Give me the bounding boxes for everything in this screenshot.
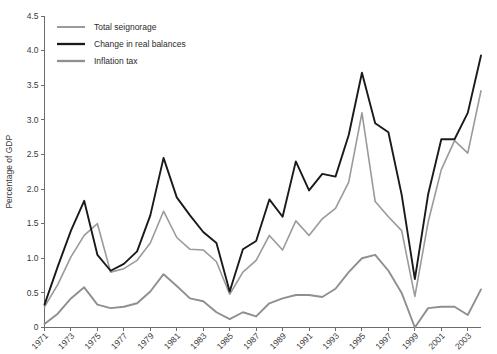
x-axis-ticks: 1971197319751977197919811983198519871989…: [29, 328, 473, 352]
y-tick-label: 0: [34, 322, 39, 332]
legend-label-0: Total seignorage: [94, 22, 157, 32]
x-tick-label: 2001: [426, 331, 447, 352]
x-tick-label: 1987: [241, 331, 262, 352]
x-tick-label: 1993: [320, 331, 341, 352]
y-tick-label: 2.5: [27, 149, 39, 159]
chart-legend: Total seignorageChange in real balancesI…: [57, 22, 186, 66]
legend-label-1: Change in real balances: [94, 39, 186, 49]
legend-label-2: Inflation tax: [94, 56, 138, 66]
x-tick-label: 1995: [347, 331, 368, 352]
y-axis-ticks: 00.51.01.52.02.53.03.54.04.5: [27, 11, 45, 333]
x-tick-label: 1973: [56, 331, 77, 352]
y-tick-label: 0.5: [27, 288, 39, 298]
x-tick-label: 1991: [294, 331, 315, 352]
y-tick-label: 3.5: [27, 80, 39, 90]
x-tick-label: 1989: [268, 331, 289, 352]
x-tick-label: 1985: [215, 331, 236, 352]
y-tick-label: 3.0: [27, 115, 39, 125]
x-tick-label: 1981: [162, 331, 183, 352]
y-tick-label: 2.0: [27, 184, 39, 194]
x-tick-label: 1971: [29, 331, 50, 352]
x-tick-label: 1977: [109, 331, 130, 352]
line-chart: 00.51.01.52.02.53.03.54.04.5 19711973197…: [0, 0, 497, 354]
series-lines: [45, 55, 482, 327]
x-tick-label: 1979: [135, 331, 156, 352]
y-axis-title: Percentage of GDP: [4, 135, 14, 209]
x-tick-label: 1975: [82, 331, 103, 352]
x-tick-label: 1983: [188, 331, 209, 352]
x-tick-label: 1999: [400, 331, 421, 352]
y-tick-label: 1.0: [27, 253, 39, 263]
x-tick-label: 1997: [373, 331, 394, 352]
y-tick-label: 4.5: [27, 11, 39, 21]
y-tick-label: 4.0: [27, 45, 39, 55]
chart-container: 00.51.01.52.02.53.03.54.04.5 19711973197…: [0, 0, 497, 354]
x-tick-label: 2003: [453, 331, 474, 352]
y-tick-label: 1.5: [27, 218, 39, 228]
